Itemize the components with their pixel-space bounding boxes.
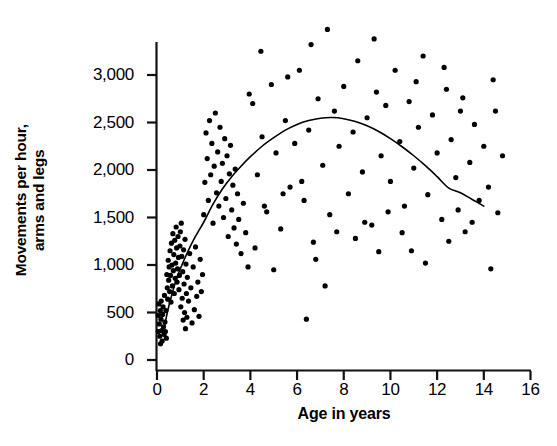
data-point <box>212 164 217 169</box>
data-point <box>491 77 496 82</box>
data-point <box>174 224 179 229</box>
data-point <box>409 248 414 253</box>
data-point <box>435 150 440 155</box>
data-point <box>425 192 430 197</box>
data-point <box>220 161 225 166</box>
data-point <box>199 289 204 294</box>
data-point <box>362 220 367 225</box>
data-point <box>198 257 203 262</box>
data-point <box>196 314 201 319</box>
data-point-group <box>156 27 506 347</box>
data-point <box>308 42 313 47</box>
y-axis-tick-label: 2,500 <box>48 114 134 131</box>
data-point <box>193 244 198 249</box>
x-axis-tick-label: 0 <box>152 380 161 399</box>
data-point <box>332 109 337 114</box>
data-point <box>173 261 178 266</box>
data-point <box>379 153 384 158</box>
data-point <box>259 134 264 139</box>
data-point <box>346 191 351 196</box>
data-point <box>388 179 393 184</box>
data-point <box>325 27 330 32</box>
data-point <box>402 204 407 209</box>
data-point <box>159 299 164 304</box>
y-axis-tick-label: 1,500 <box>48 209 134 226</box>
data-point <box>458 109 463 114</box>
data-point <box>423 261 428 266</box>
data-point <box>421 53 426 58</box>
data-point <box>414 79 419 84</box>
data-point <box>301 198 306 203</box>
data-point <box>285 74 290 79</box>
data-point <box>183 326 188 331</box>
data-point <box>439 217 444 222</box>
x-axis-tick-label: 16 <box>521 380 539 399</box>
y-axis-tick-label: 0 <box>48 351 134 368</box>
data-point <box>217 125 222 130</box>
data-point <box>383 103 388 108</box>
data-point <box>416 125 421 130</box>
data-point <box>228 143 233 148</box>
data-point <box>481 144 486 149</box>
data-point <box>231 225 236 230</box>
data-point <box>183 261 188 266</box>
data-point <box>191 264 196 269</box>
x-axis-tick-label: 4 <box>246 380 255 399</box>
data-point <box>230 183 235 188</box>
data-point <box>360 169 365 174</box>
data-point <box>186 299 191 304</box>
data-point <box>463 229 468 234</box>
data-point <box>184 291 189 296</box>
data-point <box>336 144 341 149</box>
data-point <box>250 101 255 106</box>
data-point <box>486 185 491 190</box>
data-point <box>372 36 377 41</box>
y-axis-tick-label: 500 <box>48 304 134 321</box>
data-point <box>456 207 461 212</box>
data-point <box>243 230 248 235</box>
data-point <box>178 229 183 234</box>
data-point <box>235 191 240 196</box>
data-point <box>176 287 181 292</box>
data-point <box>470 220 475 225</box>
data-point <box>299 179 304 184</box>
data-point <box>327 212 332 217</box>
data-point <box>241 201 246 206</box>
x-axis-tick-label: 10 <box>381 380 399 399</box>
data-point <box>223 196 228 201</box>
data-point <box>488 266 493 271</box>
data-point <box>271 267 276 272</box>
data-point <box>341 84 346 89</box>
data-point <box>168 273 173 278</box>
data-point <box>200 272 205 277</box>
data-point <box>164 336 169 341</box>
data-point <box>179 254 184 259</box>
data-point <box>334 229 339 234</box>
data-point <box>188 285 193 290</box>
y-axis-tick-label: 3,000 <box>48 66 134 83</box>
data-point <box>449 137 454 142</box>
data-point <box>400 230 405 235</box>
data-point <box>189 320 194 325</box>
data-point <box>292 141 297 146</box>
data-point <box>350 129 355 134</box>
x-axis-label: Age in years <box>157 405 531 423</box>
data-point <box>355 58 360 63</box>
data-point <box>163 329 168 334</box>
data-point <box>493 109 498 114</box>
data-point <box>269 82 274 87</box>
data-point <box>182 310 187 315</box>
data-point <box>194 294 199 299</box>
data-point <box>258 49 263 54</box>
data-point <box>157 321 162 326</box>
data-point <box>216 204 221 209</box>
data-point <box>175 234 180 239</box>
data-point <box>453 175 458 180</box>
data-point <box>353 236 358 241</box>
data-point <box>170 231 175 236</box>
data-point <box>460 95 465 100</box>
data-point <box>411 166 416 171</box>
data-point <box>177 243 182 248</box>
data-point <box>313 257 318 262</box>
data-point <box>236 217 241 222</box>
